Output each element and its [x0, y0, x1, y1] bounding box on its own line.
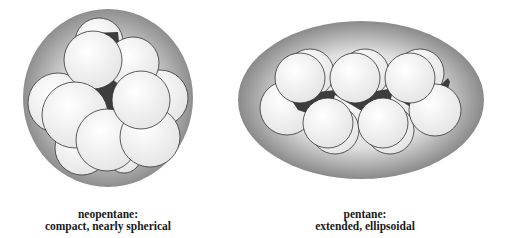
neopentane-model — [23, 9, 193, 187]
pentane-caption: pentane: extended, ellipsoidal — [290, 208, 440, 232]
neopentane-description: compact, nearly spherical — [20, 220, 196, 232]
pentane-label: pentane: — [290, 208, 440, 220]
pentane-model — [238, 21, 484, 179]
molecule-shapes-figure — [0, 0, 505, 238]
pentane-description: extended, ellipsoidal — [290, 220, 440, 232]
neopentane-caption: neopentane: compact, nearly spherical — [20, 208, 196, 232]
neopentane-label: neopentane: — [20, 208, 196, 220]
